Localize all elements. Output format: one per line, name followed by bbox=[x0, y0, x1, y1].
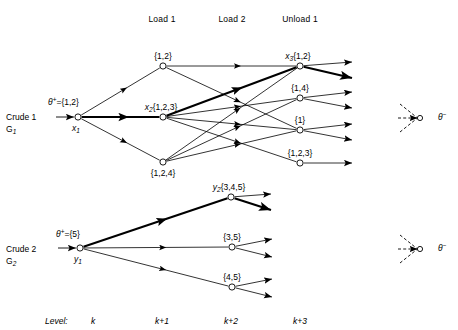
level-tick-kplus2: k+2 bbox=[224, 316, 238, 326]
level-tick-k: k bbox=[91, 316, 95, 326]
level-axis-label: Level: bbox=[45, 316, 68, 326]
node-n_35[interactable] bbox=[229, 244, 235, 250]
node-label-x3: x3{1,2} bbox=[285, 51, 310, 62]
node-label-n_1: {1} bbox=[295, 115, 305, 125]
edge-y1-to-y2 bbox=[84, 198, 228, 247]
theta-minus-node-1 bbox=[417, 246, 422, 251]
edge-x1-to-n_124 bbox=[81, 119, 159, 161]
node-label-n_123: {1,2,3} bbox=[288, 148, 313, 158]
theta-sink-layer bbox=[398, 104, 423, 263]
column-header-load-1: Load 1 bbox=[148, 14, 175, 24]
level-tick-kplus1: k+1 bbox=[155, 316, 169, 326]
exit-arrow-n_35-3 bbox=[236, 248, 272, 257]
theta-minus-label-0: θ− bbox=[438, 111, 446, 122]
theta-minus-node-0 bbox=[417, 115, 422, 120]
exit-arrow-y2-1 bbox=[235, 198, 271, 210]
node-label-n_35: {3,5} bbox=[223, 232, 241, 242]
exit-arrow-n_14-2 bbox=[304, 92, 352, 98]
column-header-load-2: Load 2 bbox=[218, 14, 245, 24]
theta-minus-ray-0-0 bbox=[400, 104, 418, 118]
theta-minus-ray-1-0 bbox=[400, 235, 418, 249]
node-x3[interactable] bbox=[297, 63, 303, 69]
node-y1[interactable] bbox=[77, 245, 83, 251]
node-x2[interactable] bbox=[160, 114, 166, 120]
node-label-n_14: {1,4} bbox=[291, 83, 309, 93]
node-label-x1: x1 bbox=[72, 123, 80, 134]
node-label-n_12: {1,2} bbox=[154, 51, 172, 61]
theta-plus-label-1: θ+={5} bbox=[56, 228, 80, 239]
exit-arrow-x3-0 bbox=[304, 62, 352, 66]
node-label-n_45: {4,5} bbox=[223, 272, 241, 282]
node-label-y2: y2{3,4,5} bbox=[213, 182, 245, 193]
edge-y1-to-n_45 bbox=[84, 249, 229, 286]
exit-arrow-x3-1 bbox=[304, 67, 352, 78]
level-tick-kplus3: k+3 bbox=[293, 316, 307, 326]
node-y2[interactable] bbox=[228, 194, 234, 200]
node-label-n_124: {1,2,4} bbox=[151, 168, 176, 178]
edge-x2-to-n_123 bbox=[167, 118, 297, 162]
row-label-name-0: Crude 1 bbox=[6, 112, 36, 122]
theta-minus-ray-1-2 bbox=[400, 249, 418, 263]
node-n_124[interactable] bbox=[160, 159, 166, 165]
node-n_1[interactable] bbox=[297, 127, 303, 133]
node-n_45[interactable] bbox=[229, 284, 235, 290]
row-label-graph-1: G2 bbox=[6, 256, 16, 267]
exit-arrow-n_45-5 bbox=[236, 288, 272, 297]
row-label-name-1: Crude 2 bbox=[6, 244, 36, 254]
exit-arrow-n_1-5 bbox=[304, 131, 352, 140]
column-header-unload-1: Unload 1 bbox=[282, 14, 318, 24]
node-label-y1: y1 bbox=[74, 254, 82, 265]
theta-minus-ray-0-2 bbox=[400, 118, 418, 132]
theta-minus-label-1: θ− bbox=[438, 242, 446, 253]
exit-arrow-n_14-3 bbox=[304, 99, 352, 108]
node-label-x2: x2{1,2,3} bbox=[145, 102, 177, 113]
exit-arrow-n_1-4 bbox=[304, 124, 352, 130]
exit-arrow-y2-0 bbox=[235, 194, 271, 197]
node-n_14[interactable] bbox=[297, 95, 303, 101]
edge-layer bbox=[56, 62, 352, 297]
node-n_123[interactable] bbox=[297, 160, 303, 166]
node-n_12[interactable] bbox=[160, 63, 166, 69]
theta-plus-label-0: θ+={1,2} bbox=[48, 96, 79, 107]
node-x1[interactable] bbox=[75, 114, 81, 120]
row-label-graph-0: G1 bbox=[6, 124, 16, 135]
edge-y1-to-n_35 bbox=[84, 247, 229, 248]
